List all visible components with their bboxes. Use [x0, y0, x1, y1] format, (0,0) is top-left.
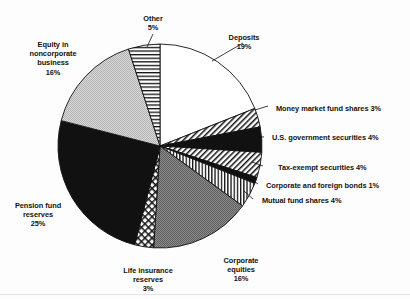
label-life-insurance-line1: Life insurance: [104, 266, 192, 275]
label-corporate-equities-pct: 16%: [205, 274, 277, 283]
leader-money-market: [255, 106, 268, 110]
label-corporate-and-foreign-bonds: Corporate and foreign bonds 1%: [266, 181, 408, 190]
label-pension-fund-line2: reserves: [2, 210, 74, 219]
label-corporate-equities-line2: equities: [205, 265, 277, 274]
label-corporate-equities: Corporate equities 16%: [205, 256, 277, 284]
label-deposits-pct: 19%: [206, 42, 282, 51]
label-other-name: Other: [118, 14, 188, 23]
label-corporate-equities-line1: Corporate: [205, 256, 277, 265]
label-equity-in-noncorporate-business: Equity in noncorporate business 16%: [15, 40, 91, 77]
label-life-insurance-line2: reserves: [104, 275, 192, 284]
label-life-insurance-reserves: Life insurance reserves 3%: [104, 266, 192, 294]
label-pension-fund-line1: Pension fund: [2, 201, 74, 210]
label-other: Other 5%: [118, 14, 188, 32]
label-equity-line3: business: [15, 58, 91, 67]
pie-chart-figure: Deposits 19% Money market fund shares 3%…: [0, 0, 410, 299]
label-tax-exempt-securities: Tax-exempt securities 4%: [278, 163, 408, 172]
label-equity-line1: Equity in: [15, 40, 91, 49]
page-bottom-divider: [0, 294, 410, 295]
label-equity-pct: 16%: [15, 68, 91, 77]
label-deposits-name: Deposits: [206, 33, 282, 42]
label-us-government-securities: U.S. government securities 4%: [272, 133, 408, 142]
label-deposits: Deposits 19%: [206, 33, 282, 51]
label-mutual-fund-shares: Mutual fund shares 4%: [262, 196, 408, 205]
label-other-pct: 5%: [118, 23, 188, 32]
label-life-insurance-pct: 3%: [104, 284, 192, 293]
label-equity-line2: noncorporate: [15, 49, 91, 58]
label-money-market-fund-shares: Money market fund shares 3%: [276, 104, 408, 113]
label-pension-fund-reserves: Pension fund reserves 25%: [2, 201, 74, 229]
label-pension-fund-pct: 25%: [2, 219, 74, 228]
